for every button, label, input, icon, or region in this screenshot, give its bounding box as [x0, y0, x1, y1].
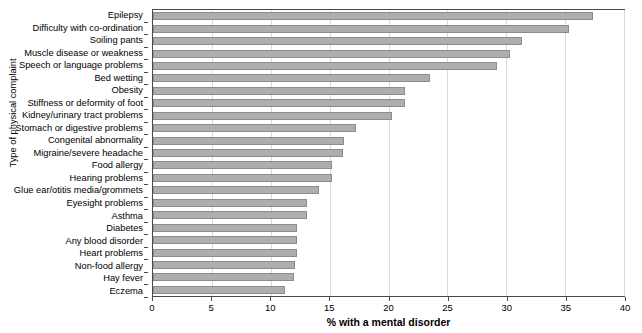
- y-tick-row: Glue ear/otitis media/grommets: [0, 184, 148, 197]
- y-tick-row: Kidney/urinary tract problems: [0, 109, 148, 122]
- bar[interactable]: [153, 87, 405, 95]
- x-tick-label: 10: [265, 302, 276, 313]
- bar[interactable]: [153, 174, 332, 182]
- x-tick-label: 5: [208, 302, 213, 313]
- x-tick-mark: [329, 297, 330, 301]
- bar-row: [153, 184, 624, 196]
- x-tick-mark: [389, 297, 390, 301]
- y-tick-label: Stiffness or deformity of foot: [27, 98, 143, 108]
- y-tick-row: Hearing problems: [0, 172, 148, 185]
- bar-row: [153, 172, 624, 184]
- x-tick-mark: [566, 297, 567, 301]
- y-tick-label: Muscle disease or weakness: [24, 48, 143, 58]
- y-tick-row: Obesity: [0, 84, 148, 97]
- bar-row: [153, 147, 624, 159]
- y-tick-label: Food allergy: [92, 160, 143, 170]
- y-tick-row: Eczema: [0, 284, 148, 297]
- x-tick-label: 20: [383, 302, 394, 313]
- bar-row: [153, 234, 624, 246]
- bar[interactable]: [153, 50, 510, 58]
- bar-row: [153, 197, 624, 209]
- bar[interactable]: [153, 186, 319, 194]
- y-tick-label: Eczema: [109, 286, 143, 296]
- x-tick-mark: [211, 297, 212, 301]
- bar[interactable]: [153, 273, 294, 281]
- bar-row: [153, 271, 624, 283]
- bar[interactable]: [153, 12, 593, 20]
- bar-row: [153, 47, 624, 59]
- y-tick-row: Food allergy: [0, 159, 148, 172]
- x-tick-label: 15: [324, 302, 335, 313]
- y-tick-label: Hay fever: [103, 273, 143, 283]
- y-tick-label: Any blood disorder: [65, 236, 143, 246]
- bar[interactable]: [153, 99, 405, 107]
- bar[interactable]: [153, 224, 297, 232]
- y-tick-label: Glue ear/otitis media/grommets: [14, 185, 143, 195]
- y-tick-label: Speech or language problems: [19, 60, 143, 70]
- y-tick-label: Congenital abnormality: [48, 135, 143, 145]
- y-tick-row: Muscle disease or weakness: [0, 47, 148, 60]
- bar[interactable]: [153, 74, 430, 82]
- bar-row: [153, 85, 624, 97]
- x-tick-label: 40: [620, 302, 631, 313]
- bar[interactable]: [153, 149, 343, 157]
- y-tick-row: Epilepsy: [0, 9, 148, 22]
- bar[interactable]: [153, 211, 307, 219]
- bar[interactable]: [153, 112, 392, 120]
- y-tick-label: Hearing problems: [70, 173, 143, 183]
- y-tick-label: Asthma: [111, 211, 143, 221]
- x-axis-title: % with a mental disorder: [152, 316, 625, 328]
- bar-row: [153, 221, 624, 233]
- x-axis-ticks: 0510152025303540: [152, 297, 625, 315]
- y-tick-row: Speech or language problems: [0, 59, 148, 72]
- bar[interactable]: [153, 161, 332, 169]
- gridline: [624, 10, 625, 296]
- y-tick-row: Diabetes: [0, 222, 148, 235]
- y-tick-label: Heart problems: [79, 248, 143, 258]
- x-tick-mark: [507, 297, 508, 301]
- y-axis-tick-labels: EpilepsyDifficulty with co-ordinationSoi…: [0, 9, 148, 297]
- bar[interactable]: [153, 37, 522, 45]
- y-tick-row: Stiffness or deformity of foot: [0, 97, 148, 110]
- bar-row: [153, 72, 624, 84]
- bar-row: [153, 110, 624, 122]
- y-tick-row: Non-food allergy: [0, 259, 148, 272]
- bar[interactable]: [153, 249, 297, 257]
- x-tick-mark: [625, 297, 626, 301]
- bar[interactable]: [153, 25, 569, 33]
- y-tick-row: Bed wetting: [0, 72, 148, 85]
- plot-area: [152, 9, 625, 297]
- y-tick-label: Non-food allergy: [75, 261, 143, 271]
- bar-row: [153, 284, 624, 296]
- bar-row: [153, 60, 624, 72]
- bar[interactable]: [153, 137, 344, 145]
- y-tick-row: Difficulty with co-ordination: [0, 22, 148, 35]
- y-tick-label: Difficulty with co-ordination: [33, 23, 143, 33]
- bar[interactable]: [153, 286, 285, 294]
- x-tick-label: 0: [149, 302, 154, 313]
- y-tick-row: Soiling pants: [0, 34, 148, 47]
- bar[interactable]: [153, 261, 295, 269]
- y-tick-label: Diabetes: [106, 223, 143, 233]
- bar-row: [153, 97, 624, 109]
- bar-row: [153, 35, 624, 47]
- y-tick-label: Stomach or digestive problems: [15, 123, 143, 133]
- bar-row: [153, 159, 624, 171]
- y-tick-label: Soiling pants: [90, 35, 143, 45]
- y-tick-label: Obesity: [111, 85, 143, 95]
- bar-row: [153, 22, 624, 34]
- bar[interactable]: [153, 62, 497, 70]
- y-tick-row: Any blood disorder: [0, 234, 148, 247]
- bar[interactable]: [153, 236, 297, 244]
- bar-row: [153, 246, 624, 258]
- y-tick-label: Epilepsy: [108, 10, 143, 20]
- bar-series: [153, 10, 624, 296]
- x-tick-label: 35: [561, 302, 572, 313]
- y-tick-label: Bed wetting: [94, 73, 143, 83]
- bar[interactable]: [153, 199, 307, 207]
- bar[interactable]: [153, 124, 356, 132]
- x-tick-label: 30: [501, 302, 512, 313]
- y-tick-row: Asthma: [0, 209, 148, 222]
- x-tick-mark: [448, 297, 449, 301]
- y-tick-label: Kidney/urinary tract problems: [22, 110, 143, 120]
